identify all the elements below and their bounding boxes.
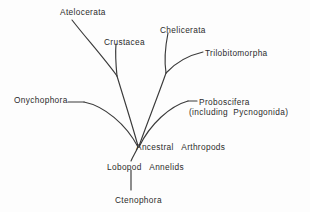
branch-chelicerata-clade-stem [139, 73, 166, 146]
taxon-label-pycnogonida-note: (including Pycnogonida) [189, 108, 288, 118]
branch-chelicerata [165, 33, 168, 73]
branch-onychophora [84, 102, 138, 147]
phylogenetic-tree-svg [0, 0, 310, 212]
branch-trilobitomorpha [166, 52, 203, 73]
taxon-label-trilobitomorpha: Trilobitomorpha [205, 49, 268, 59]
taxon-label-ctenophora: Ctenophora [115, 196, 162, 206]
taxon-label-ancestral-arthropods: Ancestral Arthropods [136, 143, 225, 153]
taxon-label-onychophora: Onychophora [14, 96, 68, 106]
taxon-label-crustacea: Crustacea [104, 38, 145, 48]
branch-crustacea [116, 44, 117, 76]
taxon-label-chelicerata: Chelicerata [160, 26, 206, 36]
taxon-label-lobopod-annelids: Lobopod Annelids [107, 163, 184, 173]
taxon-label-atelocerata: Atelocerata [60, 8, 106, 18]
diagram-canvas: Atelocerata Crustacea Chelicerata Trilob… [0, 0, 310, 212]
branch-atelocerata [72, 20, 117, 76]
branch-crustacea-clade-stem [117, 76, 138, 146]
branch-proboscifera [139, 101, 188, 147]
